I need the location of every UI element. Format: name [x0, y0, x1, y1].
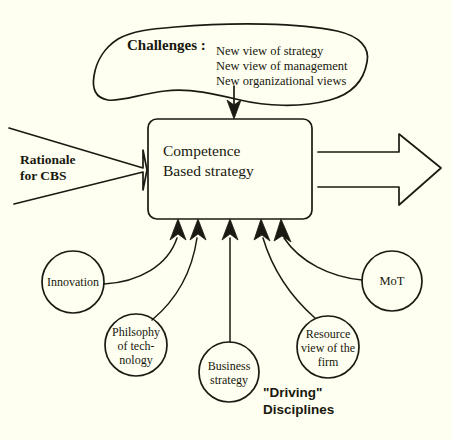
- driving-disciplines-caption-line-2: Disciplines: [263, 402, 334, 418]
- center-box-line-1: Competence: [163, 142, 240, 161]
- diagram-canvas: Challenges : New view of strategy New vi…: [0, 0, 452, 440]
- innovation-connector: [104, 238, 177, 284]
- circle-label-resource-2: firm: [291, 355, 365, 370]
- challenges-item-2: New organizational views: [216, 74, 346, 89]
- circle-label-business-0: Business: [194, 359, 264, 374]
- philosophy-arrow-head: [190, 219, 206, 240]
- circle-label-business-1: strategy: [194, 373, 264, 388]
- philosophy-connector: [152, 238, 197, 320]
- right-block-arrow-shape: [318, 134, 441, 205]
- circle-label-philosophy-0: Philsophy: [101, 325, 171, 340]
- circle-label-mot-0: MoT: [357, 274, 427, 289]
- mot-connector: [284, 238, 362, 280]
- challenges-heading: Challenges :: [127, 36, 206, 54]
- business-arrow-head: [222, 219, 238, 240]
- circle-label-resource-1: view of the: [291, 341, 365, 356]
- challenges-item-0: New view of strategy: [216, 44, 323, 59]
- resource-connector: [263, 238, 315, 318]
- circle-label-philosophy-2: nology: [101, 353, 171, 368]
- left-arrow-label-line-2: for CBS: [20, 168, 67, 184]
- innovation-arrow-head: [170, 219, 186, 240]
- center-box-line-2: Based strategy: [163, 162, 254, 181]
- mot-arrow-head: [274, 219, 291, 242]
- left-arrow-label-line-1: Rationale: [20, 152, 76, 168]
- challenges-item-1: New view of management: [216, 59, 348, 74]
- circle-label-innovation-0: Innovation: [38, 275, 108, 290]
- driving-disciplines-caption-line-1: "Driving": [263, 385, 322, 401]
- resource-arrow-head: [254, 219, 270, 241]
- circle-label-resource-0: Resource: [291, 327, 365, 342]
- circle-label-philosophy-1: of tech-: [101, 339, 171, 354]
